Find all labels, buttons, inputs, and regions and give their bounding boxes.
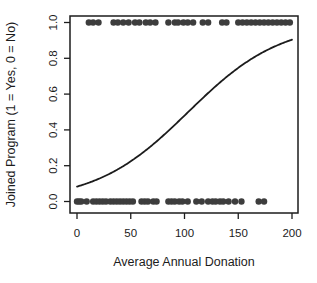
- y-tick-label: 0.2: [47, 158, 59, 174]
- x-tick-label: 100: [175, 227, 194, 239]
- logistic-regression-figure: 050100150200 0.00.20.40.60.81.0 Average …: [0, 0, 317, 283]
- y-tick-label: 0.4: [47, 121, 59, 138]
- data-point-not_joined: [83, 198, 89, 204]
- plot-canvas: 050100150200 0.00.20.40.60.81.0 Average …: [0, 0, 317, 283]
- data-point-joined: [95, 19, 101, 25]
- data-point-joined: [136, 19, 142, 25]
- data-point-not_joined: [199, 198, 205, 204]
- x-axis: 050100150200: [74, 213, 302, 239]
- data-point-joined: [125, 19, 131, 25]
- x-tick-label: 200: [282, 227, 301, 239]
- data-point-joined: [165, 19, 171, 25]
- data-point-joined: [205, 19, 211, 25]
- y-tick-label: 0.6: [47, 86, 59, 102]
- data-point-joined: [223, 19, 229, 25]
- data-point-joined: [190, 19, 196, 25]
- x-tick-label: 150: [229, 227, 248, 239]
- y-tick-label: 1.0: [47, 15, 59, 31]
- data-point-not_joined: [153, 198, 159, 204]
- data-point-joined: [287, 19, 293, 25]
- y-axis-title: Joined Program (1 = Yes, 0 = No): [4, 22, 18, 208]
- data-point-not_joined: [261, 198, 267, 204]
- x-tick-label: 50: [124, 227, 137, 239]
- y-tick-label: 0.8: [47, 50, 59, 66]
- x-axis-title: Average Annual Donation: [113, 255, 255, 269]
- data-point-not_joined: [238, 198, 244, 204]
- y-tick-label: 0.0: [47, 194, 59, 210]
- data-point-not_joined: [185, 198, 191, 204]
- x-tick-label: 0: [74, 227, 80, 239]
- data-point-not_joined: [130, 198, 136, 204]
- data-point-not_joined: [232, 198, 238, 204]
- data-point-not_joined: [225, 198, 231, 204]
- y-axis: 0.00.20.40.60.81.0: [47, 15, 70, 210]
- data-point-joined: [152, 19, 158, 25]
- plot-box: [70, 16, 298, 213]
